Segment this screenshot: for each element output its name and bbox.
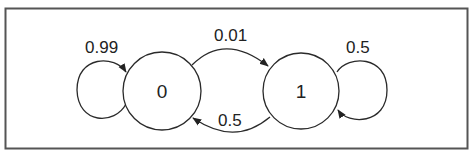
edge-label-1-to-0: 0.5 <box>218 111 242 130</box>
edge-0-to-0 <box>77 61 126 118</box>
state-label-1: 1 <box>296 81 307 102</box>
edge-0-to-1 <box>192 49 268 66</box>
edge-1-to-1 <box>337 61 387 120</box>
edge-label-0-to-0: 0.99 <box>85 38 118 57</box>
edge-label-0-to-1: 0.01 <box>214 26 247 45</box>
edge-label-1-to-1: 0.5 <box>346 38 370 57</box>
state-label-0: 0 <box>157 81 168 102</box>
state-node-0: 0 <box>123 52 201 130</box>
markov-chain-diagram: 0.99 0.01 0.5 0.5 0 1 <box>0 0 476 156</box>
state-node-1: 1 <box>263 53 339 129</box>
